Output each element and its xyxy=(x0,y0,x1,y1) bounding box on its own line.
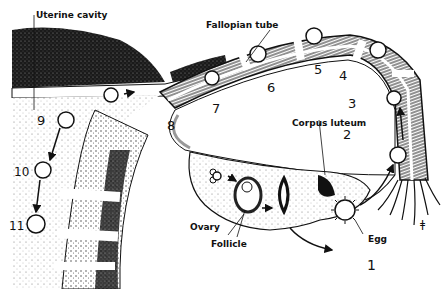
diagram-canvas: Uterine cavity Fallopian tube Corpus lut… xyxy=(0,0,448,289)
label-corpus-luteum: Corpus luteum xyxy=(292,118,366,128)
stage-9: 9 xyxy=(37,113,45,128)
ruptured-follicle xyxy=(280,178,289,212)
label-fallopian-tube: Fallopian tube xyxy=(206,20,278,30)
artist-signature: ǂ xyxy=(420,218,425,231)
stage-6: 6 xyxy=(267,80,275,95)
stage-10: 10 xyxy=(14,165,29,179)
stage-7: 7 xyxy=(212,101,220,116)
label-uterine-cavity: Uterine cavity xyxy=(36,10,108,20)
reproductive-diagram: Uterine cavity Fallopian tube Corpus lut… xyxy=(0,0,448,289)
label-follicle: Follicle xyxy=(211,239,247,249)
stage-8: 8 xyxy=(167,118,175,133)
label-egg: Egg xyxy=(368,234,387,244)
label-ovary: Ovary xyxy=(190,222,220,232)
stage-11: 11 xyxy=(9,219,24,233)
egg-stage-1 xyxy=(335,200,355,220)
fimbriae xyxy=(365,175,440,225)
stage-4: 4 xyxy=(339,68,347,83)
stage-3: 3 xyxy=(348,96,356,111)
stage-5: 5 xyxy=(314,62,322,77)
stage-2: 2 xyxy=(343,127,351,142)
stage-1: 1 xyxy=(367,257,376,273)
